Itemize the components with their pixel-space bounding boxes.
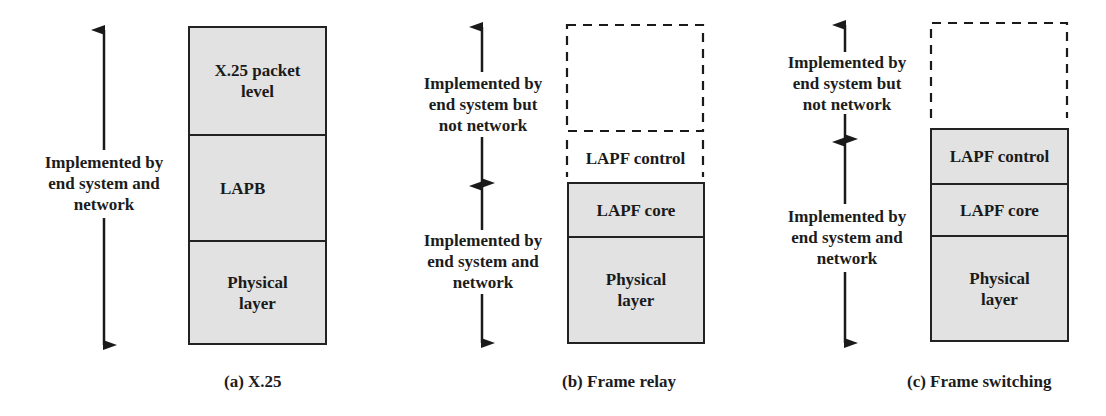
layer-physical: Physical layer <box>190 240 325 343</box>
layer-lapf-control-label: LAPF control <box>567 139 704 177</box>
caption-b: (b) Frame relay <box>562 372 676 392</box>
protocol-stack-frame-switching: LAPF control LAPF core Physical layer <box>930 128 1069 342</box>
layer-lapf-core: LAPF core <box>569 184 703 236</box>
caption-c: (c) Frame switching <box>907 372 1051 392</box>
protocol-stack-frame-relay: LAPF core Physical layer <box>567 182 705 344</box>
scope-label-end-system-and-network: Implemented by end system and network <box>757 206 937 269</box>
scope-label-end-system-and-network: Implemented by end system and network <box>393 230 573 293</box>
layer-lapf-control-dashed: LAPF control <box>567 139 704 177</box>
layer-lapf-control: LAPF control <box>932 130 1067 183</box>
caption-a: (a) X.25 <box>224 372 282 392</box>
scope-label-end-system-and-network: Implemented by end system and network <box>18 152 190 215</box>
layer-physical: Physical layer <box>932 235 1067 340</box>
scope-label-end-system-only: Implemented by end system but not networ… <box>757 52 937 115</box>
scope-label-end-system-only: Implemented by end system but not networ… <box>393 73 573 136</box>
protocol-stack-x25: X.25 packet level LAPB Physical layer <box>188 26 327 345</box>
dashed-outline-c <box>931 23 1067 118</box>
layer-lapf-core: LAPF core <box>932 183 1067 235</box>
layer-physical: Physical layer <box>569 236 703 342</box>
layer-lapb: LAPB <box>190 134 325 240</box>
layer-x25-packet-level: X.25 packet level <box>190 28 325 134</box>
